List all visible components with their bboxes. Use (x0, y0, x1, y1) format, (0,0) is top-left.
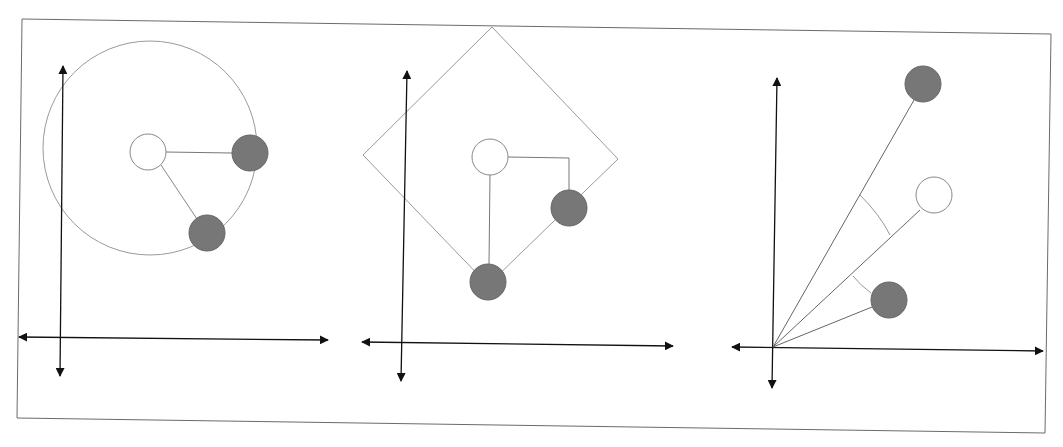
angle-arc (860, 195, 890, 235)
connector-line (161, 165, 197, 219)
neighbor-point (232, 135, 268, 171)
neighbor-point (551, 190, 587, 226)
y-axis (401, 71, 407, 381)
neighbor-point (905, 66, 941, 102)
neighbor-point (470, 264, 506, 300)
neighbor-point (871, 282, 907, 318)
ray-line (773, 307, 872, 347)
connector-line (489, 175, 490, 264)
angle-arc (853, 276, 871, 293)
x-axis (19, 337, 328, 340)
y-axis (60, 66, 63, 376)
panel-cosine (732, 66, 1043, 388)
x-axis (732, 347, 1043, 351)
query-point (916, 177, 952, 213)
connector-path (508, 157, 569, 190)
ray-line (773, 210, 920, 347)
panel-euclidean (19, 41, 328, 376)
x-axis (362, 342, 673, 346)
diagram-frame (17, 19, 1051, 433)
distance-metrics-diagram (0, 0, 1063, 447)
query-point (472, 139, 508, 175)
neighbor-point (189, 215, 225, 251)
panel-manhattan (362, 27, 673, 381)
connector-line (166, 152, 232, 153)
query-point (130, 134, 166, 170)
